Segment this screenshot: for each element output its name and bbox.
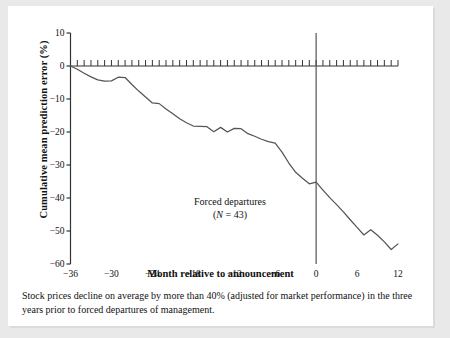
annotation-line-2: (N = 43) xyxy=(160,208,300,221)
chart-canvas xyxy=(8,6,433,278)
y-tick-label: −50 xyxy=(28,226,65,236)
month-tick-marks xyxy=(77,60,398,66)
chart-svg xyxy=(8,6,433,278)
annotation-n-value: = 43) xyxy=(223,209,247,220)
x-axis-title: Month relative to announcement xyxy=(8,268,433,279)
chart-plot-area: 100−10−20−30−40−50−60 −36−30−24−18−12−60… xyxy=(8,6,433,278)
annotation-line-1: Forced departures xyxy=(160,195,300,208)
data-series-line xyxy=(71,66,399,249)
annotation-n-symbol: N xyxy=(216,209,223,220)
series-annotation: Forced departures (N = 43) xyxy=(160,195,300,221)
figure-caption: Stock prices decline on average by more … xyxy=(22,289,420,316)
y-axis-title: Cumulative mean prediction error (%) xyxy=(38,35,49,225)
figure-panel: 100−10−20−30−40−50−60 −36−30−24−18−12−60… xyxy=(8,6,433,326)
